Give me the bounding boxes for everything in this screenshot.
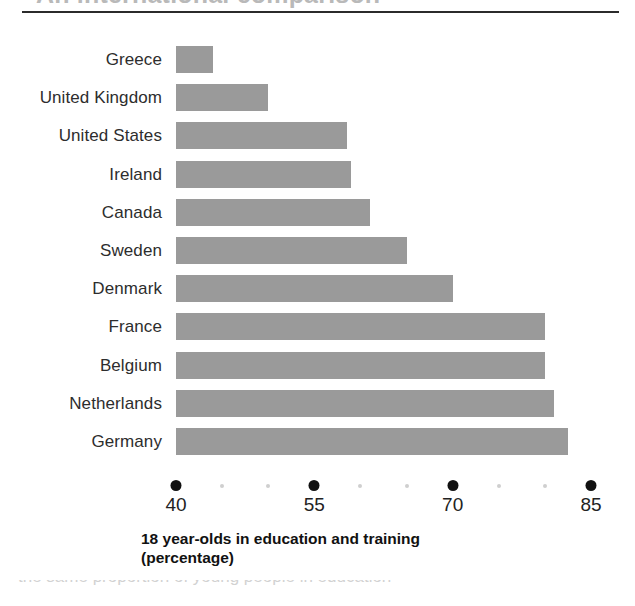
- axis-tick-label: 70: [442, 494, 463, 516]
- bar-row: Germany: [0, 428, 635, 455]
- bar-row: Greece: [0, 46, 635, 73]
- axis-major-tick-dot: [447, 480, 458, 491]
- bar-category-label: United States: [0, 122, 176, 149]
- bar-row: France: [0, 313, 635, 340]
- bar-category-label: France: [0, 313, 176, 340]
- bar-category-label: Belgium: [0, 352, 176, 379]
- page-bottom-artifact-text: the same proportion of young people in e…: [18, 580, 391, 587]
- bar-row: Ireland: [0, 161, 635, 188]
- bar: [176, 275, 453, 302]
- bar-row: Sweden: [0, 237, 635, 264]
- bar-row: Netherlands: [0, 390, 635, 417]
- bar: [176, 390, 554, 417]
- axis-tick-label: 40: [165, 494, 186, 516]
- axis-major-tick-dot: [586, 480, 597, 491]
- top-rule-divider: [22, 11, 619, 13]
- axis-minor-tick-dot: [266, 484, 270, 488]
- axis-minor-tick-dot: [220, 484, 224, 488]
- bar-category-label: United Kingdom: [0, 84, 176, 111]
- x-axis-label-line2: (percentage): [141, 548, 611, 567]
- bar-row: Denmark: [0, 275, 635, 302]
- x-axis-label-line1: 18 year-olds in education and training: [141, 529, 611, 548]
- bar-category-label: Canada: [0, 199, 176, 226]
- bar: [176, 161, 351, 188]
- axis-major-tick-dot: [171, 480, 182, 491]
- bar: [176, 313, 545, 340]
- bar-category-label: Germany: [0, 428, 176, 455]
- bar: [176, 199, 370, 226]
- clipped-title-strip: An international comparison: [0, 0, 635, 9]
- bar-row: Belgium: [0, 352, 635, 379]
- bar-category-label: Sweden: [0, 237, 176, 264]
- bar: [176, 428, 568, 455]
- bar-category-label: Ireland: [0, 161, 176, 188]
- bar-row: United Kingdom: [0, 84, 635, 111]
- bar-category-label: Netherlands: [0, 390, 176, 417]
- bar-category-label: Greece: [0, 46, 176, 73]
- bar-category-label: Denmark: [0, 275, 176, 302]
- page-bottom-artifact: the same proportion of young people in e…: [0, 580, 635, 606]
- axis-major-tick-dot: [309, 480, 320, 491]
- bar: [176, 84, 268, 111]
- axis-minor-tick-dot: [405, 484, 409, 488]
- clipped-title-text: An international comparison: [36, 0, 380, 9]
- x-axis-label: 18 year-olds in education and training (…: [141, 529, 611, 567]
- bar: [176, 352, 545, 379]
- bar: [176, 46, 213, 73]
- bar: [176, 237, 407, 264]
- axis-minor-tick-dot: [358, 484, 362, 488]
- bar: [176, 122, 347, 149]
- axis-minor-tick-dot: [543, 484, 547, 488]
- bar-row: United States: [0, 122, 635, 149]
- x-axis: 40557085: [0, 478, 635, 524]
- bar-chart-plot-area: GreeceUnited KingdomUnited StatesIreland…: [0, 40, 635, 480]
- axis-minor-tick-dot: [497, 484, 501, 488]
- axis-tick-label: 85: [580, 494, 601, 516]
- axis-tick-label: 55: [304, 494, 325, 516]
- bar-row: Canada: [0, 199, 635, 226]
